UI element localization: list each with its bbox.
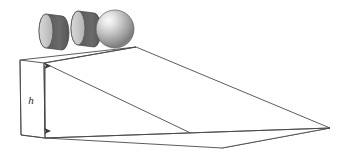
inclined-plane-scene: h [0, 0, 345, 159]
cylinder-2-face [71, 11, 85, 45]
sphere [96, 10, 134, 48]
cylinder-1-face [39, 14, 53, 48]
cylinder-1 [39, 14, 69, 50]
height-label: h [28, 94, 34, 106]
figure-root: h [0, 0, 345, 159]
sphere-body [96, 10, 134, 48]
ramp-wedge [20, 47, 330, 148]
